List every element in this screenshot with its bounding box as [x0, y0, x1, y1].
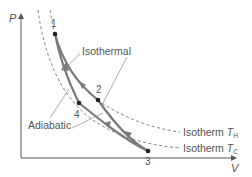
- isotherm-cold-sub: C: [233, 148, 238, 155]
- carnot-pv-diagram: P V 1 2 3 4 Iso: [0, 0, 252, 177]
- point-2: [96, 98, 101, 103]
- leader-isothermal-b: [102, 57, 127, 105]
- leader-adiabatic-a: [50, 89, 69, 118]
- isotherm-hot-sub: H: [233, 132, 238, 139]
- point-2-label: 2: [96, 84, 102, 95]
- isothermal-label: Isothermal: [82, 45, 131, 57]
- isotherm-cold-prefix: Isotherm: [183, 142, 227, 154]
- adiabatic-label: Adiabatic: [28, 119, 71, 131]
- isotherm-hot-label: Isotherm TH: [183, 126, 238, 139]
- isotherm-cold-label: Isotherm TC: [183, 142, 238, 155]
- curve-2-to-3: [98, 100, 148, 151]
- point-3-label: 3: [145, 156, 151, 167]
- point-1: [53, 32, 58, 37]
- point-4-label: 4: [74, 109, 80, 120]
- isotherm-hot-line: [50, 10, 180, 132]
- curve-1-to-2: [55, 34, 98, 100]
- point-3: [146, 149, 151, 154]
- x-axis-label: V: [231, 162, 240, 174]
- y-axis-label: P: [9, 12, 17, 24]
- isotherm-hot-prefix: Isotherm: [183, 126, 227, 138]
- point-4: [77, 101, 82, 106]
- point-1-label: 1: [51, 18, 57, 29]
